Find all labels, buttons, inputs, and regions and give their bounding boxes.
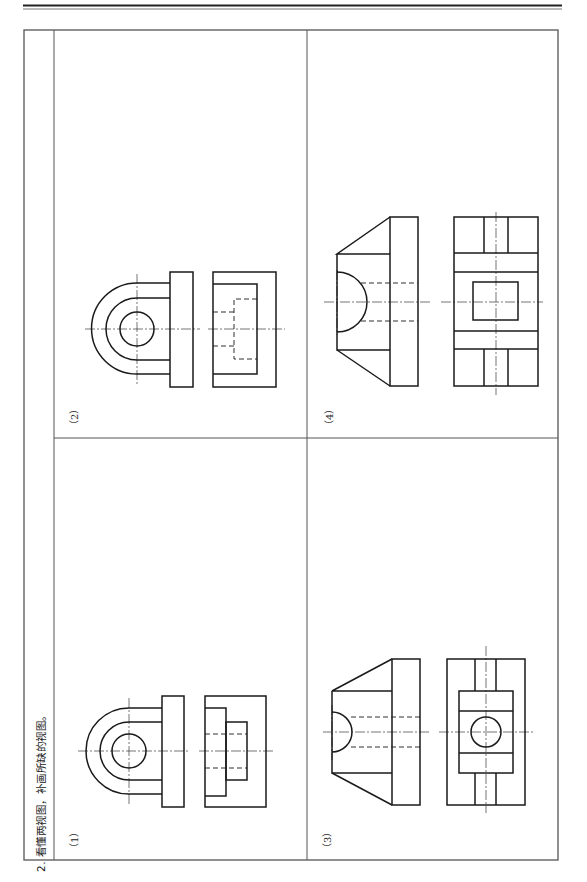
worksheet-page <box>0 0 587 882</box>
header-rule <box>23 6 562 10</box>
drawing-problem-4 <box>324 212 543 395</box>
problem-label-2: （2） <box>66 404 81 430</box>
drawing-problem-2 <box>85 272 285 387</box>
problem-label-4: （4） <box>321 404 336 430</box>
problem-label-1: （1） <box>66 827 81 853</box>
drawing-problem-1 <box>78 696 275 807</box>
problem-label-3: （3） <box>319 827 334 853</box>
exercise-instruction: 2. 看懂两视图，补画所缺的视图。 <box>33 710 48 872</box>
drawing-problem-3 <box>323 646 534 813</box>
